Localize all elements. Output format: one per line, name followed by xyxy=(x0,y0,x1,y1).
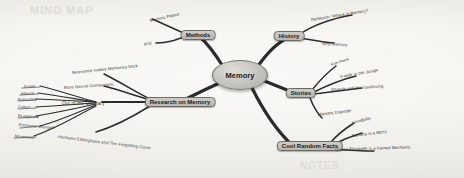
mindmap-canvas: MIND MAP NOTES xyxy=(0,0,464,178)
link-ordinary-emotional xyxy=(40,105,96,126)
leaf-absurd[interactable]: Absurd xyxy=(21,90,34,96)
link-research-ebbinghaus xyxy=(96,106,150,132)
leaf-out-of-the-ordinary[interactable]: Out of the Ordinary xyxy=(62,101,105,106)
node-methods[interactable]: Methods xyxy=(181,30,216,40)
node-stories[interactable]: Stories xyxy=(286,88,316,98)
node-cool-random-facts[interactable]: Cool Random Facts xyxy=(277,141,343,151)
link-research-neural xyxy=(104,86,150,100)
leaf-colour[interactable]: Colour xyxy=(18,104,30,109)
node-center-memory[interactable]: Memory xyxy=(212,60,268,90)
leaf-funny[interactable]: Funny xyxy=(24,83,36,89)
node-research-on-memory[interactable]: Research on Memory xyxy=(145,97,216,107)
leaf-exaggerate[interactable]: Exaggerate xyxy=(18,113,39,119)
leaf-ridiculous[interactable]: Ridiculous xyxy=(18,96,37,102)
link-center-history xyxy=(258,38,288,66)
node-history[interactable]: History xyxy=(274,31,305,41)
leaf-grid[interactable]: grid xyxy=(144,41,152,46)
